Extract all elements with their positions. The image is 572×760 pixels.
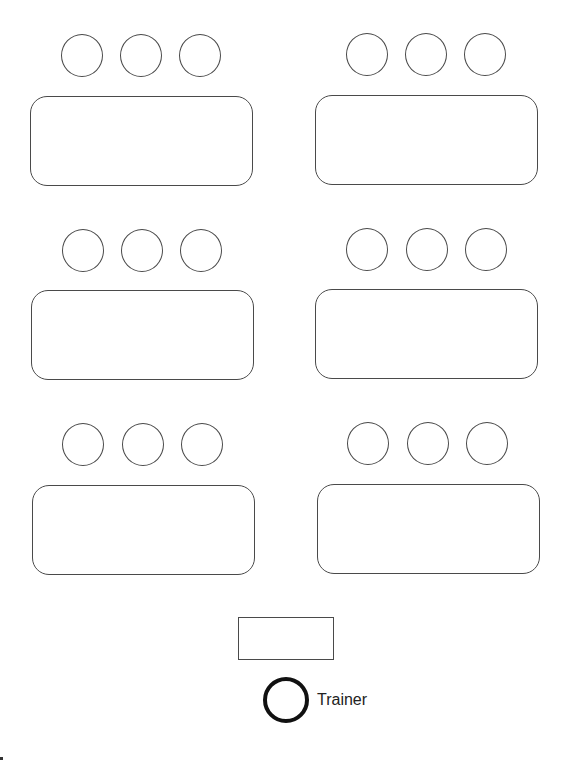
trainer-desk	[238, 617, 334, 660]
student-seat-icon	[181, 423, 223, 466]
trainer-label: Trainer	[317, 692, 367, 708]
student-seat-icon	[121, 229, 163, 272]
group-table	[315, 95, 538, 185]
trainer-seat-icon	[263, 677, 309, 723]
student-seat-icon	[62, 229, 104, 272]
student-seat-icon	[464, 33, 506, 76]
group-table	[31, 290, 254, 380]
student-seat-icon	[62, 423, 104, 466]
student-seat-icon	[405, 33, 447, 76]
student-seat-icon	[346, 228, 388, 271]
student-seat-icon	[122, 423, 164, 466]
group-table	[32, 485, 255, 575]
student-seat-icon	[347, 422, 389, 465]
group-table	[30, 96, 253, 186]
student-seat-icon	[120, 34, 162, 77]
student-seat-icon	[180, 229, 222, 272]
student-seat-icon	[61, 34, 103, 77]
student-seat-icon	[179, 34, 221, 77]
group-table	[317, 484, 540, 574]
student-seat-icon	[346, 33, 388, 76]
student-seat-icon	[407, 422, 449, 465]
student-seat-icon	[466, 422, 508, 465]
student-seat-icon	[406, 228, 448, 271]
group-table	[315, 289, 538, 379]
student-seat-icon	[465, 228, 507, 271]
